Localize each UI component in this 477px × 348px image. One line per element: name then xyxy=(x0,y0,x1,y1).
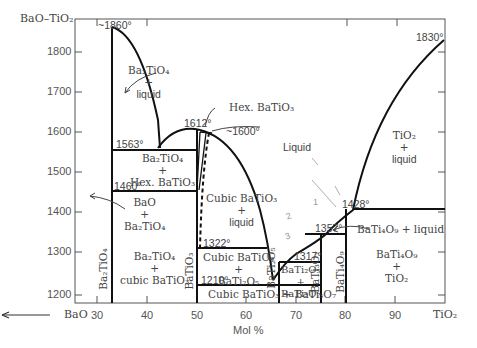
temp-1860: ~1860° xyxy=(98,19,132,31)
region-line: liquid xyxy=(128,88,169,100)
x-left-label: BaO xyxy=(64,309,88,321)
x-axis-title: Mol % xyxy=(233,324,264,336)
region-line: BaTi₂O₅ xyxy=(203,275,274,287)
plus-sign: + xyxy=(130,164,195,176)
y-tick-1400: 1400 xyxy=(47,205,71,217)
temp-1322: 1322° xyxy=(203,237,231,249)
compound-ba2tio4: Ba₂TiO₄ xyxy=(97,244,109,294)
label-hex-batio3: Hex. BaTiO₃ xyxy=(229,101,294,113)
plus-sign: + xyxy=(120,262,189,274)
plus-sign: + xyxy=(392,141,417,153)
x-tick-60: 60 xyxy=(240,309,252,321)
plus-sign: + xyxy=(376,260,417,272)
region-liquid: Liquid xyxy=(283,141,311,153)
temp-1357: 1357° xyxy=(315,222,343,234)
region-line: Ba₂TiO₄ xyxy=(128,64,169,76)
region-ba2tio4-liquid: Ba₂TiO₄ + liquid xyxy=(128,64,169,100)
region-line: Cubic BaTiO₃ xyxy=(203,251,274,263)
x-tick-30: 30 xyxy=(91,309,103,321)
x-right-label: TiO₂ xyxy=(433,309,457,321)
mark-1: 1 xyxy=(313,196,318,208)
compound-batio3: BaTiO₃ xyxy=(183,246,195,296)
region-line: BaTi₄O₉ xyxy=(376,248,417,260)
x-tick-70: 70 xyxy=(290,309,302,321)
compound-bati4o9: BaTi₄O₉ xyxy=(334,247,346,297)
region-tio2-liquid: TiO₂ + liquid xyxy=(392,129,417,165)
temp-1563: 1563° xyxy=(116,138,144,150)
region-cubic-liquid: Cubic BaTiO₃ + liquid xyxy=(206,192,277,228)
y-tick-1800: 1800 xyxy=(47,45,71,57)
region-line: Ba₂TiO₄ xyxy=(130,152,195,164)
region-cubic-bati2o5: Cubic BaTiO₃ + BaTi₂O₅ xyxy=(203,251,274,287)
bao-arrow xyxy=(2,312,50,318)
x-tick-50: 50 xyxy=(191,309,203,321)
y-tick-1700: 1700 xyxy=(47,85,71,97)
region-bati4o9-tio2: BaTi₄O₉ + TiO₂ xyxy=(376,248,417,284)
y-axis-title: BaO–TiO₂ xyxy=(20,13,73,25)
region-line: Ba₂TiO₄ xyxy=(120,250,189,262)
region-ba2tio4-hex: Ba₂TiO₄ + Hex. BaTiO₃ xyxy=(130,152,195,188)
temp-1428: 1428° xyxy=(342,198,370,210)
region-bati4o9-liquid: BaTi₄O₉ + liquid xyxy=(357,223,444,235)
plus-sign: + xyxy=(128,76,169,88)
region-line: TiO₂ xyxy=(376,272,417,284)
region-bao-ba2tio4: BaO + Ba₂TiO₄ xyxy=(124,196,165,232)
region-line: Hex. BaTiO₃ xyxy=(130,176,195,188)
y-tick-1600: 1600 xyxy=(47,125,71,137)
y-tick-1200: 1200 xyxy=(47,288,71,300)
plus-sign: + xyxy=(124,208,165,220)
x-tick-90: 90 xyxy=(389,309,401,321)
x-tick-40: 40 xyxy=(141,309,153,321)
temp-1612: 1612° xyxy=(184,117,212,129)
plus-sign: + xyxy=(206,204,277,216)
region-line: TiO₂ xyxy=(392,129,417,141)
region-line: liquid xyxy=(392,153,417,165)
region-line: liquid xyxy=(206,216,277,228)
temp-1600: ~1600° xyxy=(226,125,260,137)
x-tick-80: 80 xyxy=(339,309,351,321)
region-line: Cubic BaTiO₃ xyxy=(206,192,277,204)
region-ba2tio4-cubic: Ba₂TiO₄ + cubic BaTiO₃ xyxy=(120,250,189,286)
y-tick-1300: 1300 xyxy=(47,245,71,257)
plus-sign: + xyxy=(203,263,274,275)
compound-bati3o7: BaTi₃O₇ xyxy=(309,247,321,297)
temp-1830: 1830° xyxy=(416,31,444,43)
region-line: Ba₂TiO₄ xyxy=(124,220,165,232)
region-line: cubic BaTiO₃ xyxy=(120,274,189,286)
region-line: BaO xyxy=(124,196,165,208)
y-tick-1500: 1500 xyxy=(47,165,71,177)
compound-bati2o5: BaTi₂O₅ xyxy=(265,243,277,293)
